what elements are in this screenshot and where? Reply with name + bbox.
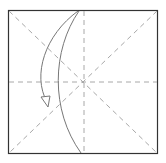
origami-diagram bbox=[0, 0, 166, 163]
